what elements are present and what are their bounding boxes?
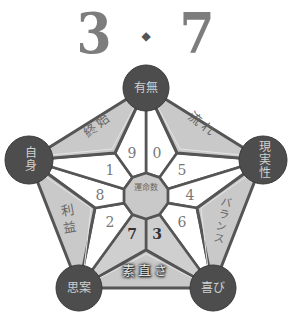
node-label-top: 有無	[126, 82, 166, 95]
title-right-number: 7	[175, 2, 220, 64]
node-label-left: 自身	[22, 146, 35, 172]
node-label-bottom-left: 思案	[59, 282, 99, 295]
segment-number-8: 8	[93, 187, 107, 203]
node-label-bottom-right: 喜び	[193, 282, 233, 295]
node-label-right: 現実性	[256, 140, 269, 179]
title-diamond-icon: ◆	[139, 28, 153, 44]
segment-number-0: 0	[150, 145, 164, 161]
segment-number-3: 3	[150, 226, 164, 242]
segment-number-5: 5	[175, 162, 189, 178]
segment-number-4: 4	[183, 187, 197, 203]
segment-number-1: 1	[103, 162, 117, 178]
segment-number-2: 2	[103, 214, 117, 230]
fate-number-diagram: 3 ◆ 7 有無 自身 現実性 思案 喜び 終始 流れ 利益 バランス 素直さ …	[0, 0, 301, 330]
segment-number-7: 7	[125, 226, 139, 242]
petal-label-bottom: 素直さ	[118, 263, 174, 279]
segment-number-6: 6	[175, 214, 189, 230]
center-decagon	[124, 173, 168, 219]
center-label: 運命数	[126, 181, 166, 192]
title-left-number: 3	[72, 2, 117, 64]
segment-number-9: 9	[125, 145, 139, 161]
